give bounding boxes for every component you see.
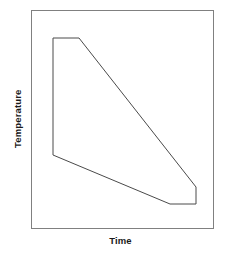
figure-background: [0, 0, 241, 258]
figure-root: Temperature Time: [0, 0, 241, 258]
x-axis-label: Time: [0, 236, 241, 246]
plot-canvas: [0, 0, 241, 258]
y-axis-label-container: Temperature: [0, 0, 34, 238]
y-axis-label: Temperature: [12, 90, 22, 149]
